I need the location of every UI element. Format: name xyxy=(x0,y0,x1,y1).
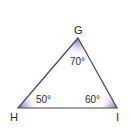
triangle-diagram: G H I 70° 50° 60° xyxy=(0,0,131,131)
vertex-label-i: I xyxy=(116,111,119,123)
angle-label-h: 50° xyxy=(36,94,51,105)
angle-label-i: 60° xyxy=(85,94,100,105)
vertex-label-g: G xyxy=(74,24,83,36)
vertex-label-h: H xyxy=(10,111,18,123)
triangle-outline xyxy=(18,38,117,108)
angle-label-g: 70° xyxy=(70,56,85,67)
